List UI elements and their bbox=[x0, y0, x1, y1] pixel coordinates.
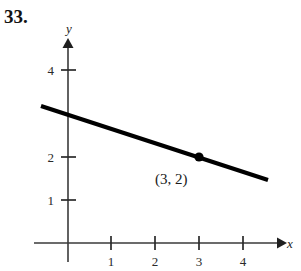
y-tick-label-2: 2 bbox=[48, 150, 55, 165]
marked-point-label: (3, 2) bbox=[155, 171, 188, 188]
figure-container: 33. 1 2 3 4 1 2 4 y bbox=[0, 0, 301, 271]
x-tick-label-3: 3 bbox=[196, 254, 203, 269]
y-tick-label-4: 4 bbox=[48, 63, 55, 78]
x-tick-label-1: 1 bbox=[108, 254, 115, 269]
x-axis-label: x bbox=[286, 236, 293, 251]
x-tick-label-2: 2 bbox=[152, 254, 159, 269]
coordinate-plot: 1 2 3 4 1 2 4 y x (3, 2) bbox=[0, 0, 301, 271]
plotted-line bbox=[41, 106, 268, 180]
marked-point-dot bbox=[194, 152, 203, 161]
x-tick-label-4: 4 bbox=[240, 254, 247, 269]
y-tick-label-1: 1 bbox=[48, 193, 55, 208]
y-axis-label: y bbox=[64, 21, 72, 36]
y-axis-arrow-icon bbox=[63, 38, 74, 48]
x-axis-arrow-icon bbox=[277, 238, 287, 249]
